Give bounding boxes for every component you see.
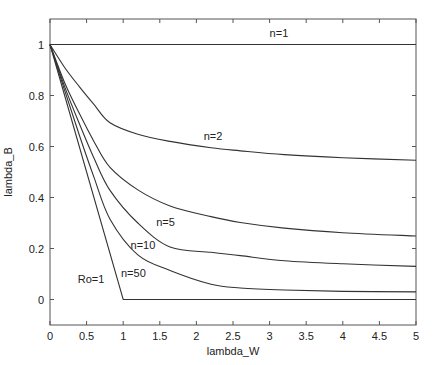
x-tick-label: 5 xyxy=(413,330,419,342)
y-axis-label: lambda_B xyxy=(2,147,14,197)
series-label-n-10: n=10 xyxy=(131,239,156,251)
series-label-n-50: n=50 xyxy=(121,267,146,279)
x-tick-label: 3.5 xyxy=(299,330,314,342)
series-lines xyxy=(50,45,416,300)
x-tick-label: 1.5 xyxy=(152,330,167,342)
y-tick-label: 0.4 xyxy=(29,192,44,204)
x-tick-label: 0 xyxy=(47,330,53,342)
x-tick-label: 4 xyxy=(340,330,346,342)
y-tick-label: 0 xyxy=(38,294,44,306)
series-line-n-10 xyxy=(50,45,416,267)
series-labels: n=1n=2n=5n=10n=50Ro=1 xyxy=(78,27,288,285)
x-tick-label: 4.5 xyxy=(372,330,387,342)
x-tick-label: 2.5 xyxy=(225,330,240,342)
x-axis: 00.511.522.533.544.55 xyxy=(47,19,419,342)
y-tick-label: 0.2 xyxy=(29,243,44,255)
plot-frame xyxy=(50,19,416,325)
series-label-n-2: n=2 xyxy=(204,130,223,142)
x-axis-label: lambda_W xyxy=(207,345,260,357)
y-tick-label: 1 xyxy=(38,39,44,51)
y-tick-label: 0.6 xyxy=(29,141,44,153)
x-tick-label: 1 xyxy=(120,330,126,342)
series-line-n-2 xyxy=(50,45,416,161)
x-tick-label: 2 xyxy=(193,330,199,342)
series-label-ro-1: Ro=1 xyxy=(78,273,105,285)
series-label-n-1: n=1 xyxy=(270,27,289,39)
chart: 00.511.522.533.544.55 00.20.40.60.81 n=1… xyxy=(0,0,438,365)
series-label-n-5: n=5 xyxy=(156,216,175,228)
x-tick-label: 3 xyxy=(267,330,273,342)
x-tick-label: 0.5 xyxy=(79,330,94,342)
series-line-ro-1 xyxy=(50,45,416,300)
y-tick-label: 0.8 xyxy=(29,90,44,102)
